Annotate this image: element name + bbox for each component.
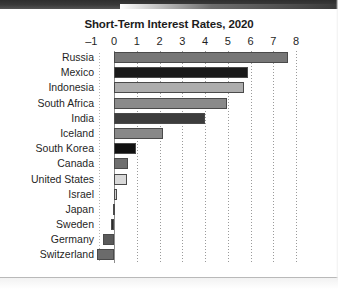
bar <box>114 113 205 124</box>
x-tick-label: 1 <box>125 35 149 47</box>
bar-row: Germany <box>0 233 338 248</box>
bar <box>114 52 288 63</box>
category-label: South Africa <box>0 97 94 110</box>
bar-row: South Korea <box>0 142 338 157</box>
bar <box>114 128 163 139</box>
category-label: Israel <box>0 188 94 201</box>
bar-row: South Africa <box>0 97 338 112</box>
x-tick-label: 2 <box>148 35 172 47</box>
category-label: United States <box>0 173 94 186</box>
category-label: Indonesia <box>0 81 94 94</box>
x-tick-label: 8 <box>284 35 308 47</box>
category-label: Germany <box>0 233 94 246</box>
bar-row: Mexico <box>0 66 338 81</box>
category-label: Russia <box>0 51 94 64</box>
bar <box>114 143 136 154</box>
category-label: Switzerland <box>0 248 94 261</box>
scan-artifact-band <box>0 0 338 9</box>
bar-row: Japan <box>0 203 338 218</box>
category-label: South Korea <box>0 142 94 155</box>
bar-row: Switzerland <box>0 248 338 263</box>
category-label: Canada <box>0 157 94 170</box>
category-label: Mexico <box>0 66 94 79</box>
bar-row: Indonesia <box>0 81 338 96</box>
bar-row: India <box>0 112 338 127</box>
x-tick-label: 3 <box>170 35 194 47</box>
category-label: Japan <box>0 203 94 216</box>
bar <box>113 204 115 215</box>
bar <box>97 249 114 260</box>
bar <box>111 219 114 230</box>
bar-row: Sweden <box>0 218 338 233</box>
bar <box>114 189 117 200</box>
bar-row: United States <box>0 173 338 188</box>
bar <box>114 98 227 109</box>
bar-row: Russia <box>0 51 338 66</box>
bar <box>114 67 248 78</box>
x-tick-label: 5 <box>216 35 240 47</box>
bar <box>114 158 128 169</box>
bar <box>114 174 127 185</box>
bar-rows: RussiaMexicoIndonesiaSouth AfricaIndiaIc… <box>0 51 338 264</box>
x-tick-label: 7 <box>261 35 285 47</box>
figure-bottom-shadow <box>0 278 338 289</box>
bar-row: Canada <box>0 157 338 172</box>
category-label: Sweden <box>0 218 94 231</box>
bar <box>103 234 114 245</box>
bar <box>114 82 244 93</box>
bar-row: Iceland <box>0 127 338 142</box>
x-tick-label: –1 <box>79 35 103 47</box>
x-axis-tick-labels: –1012345678 <box>0 35 338 49</box>
category-label: India <box>0 112 94 125</box>
x-tick-label: 0 <box>102 35 126 47</box>
bar-row: Israel <box>0 188 338 203</box>
plot-area: –1012345678 RussiaMexicoIndonesiaSouth A… <box>0 9 338 271</box>
category-label: Iceland <box>0 127 94 140</box>
x-tick-label: 6 <box>239 35 263 47</box>
x-tick-label: 4 <box>193 35 217 47</box>
chart-figure: Short-Term Interest Rates, 2020 –1012345… <box>0 9 338 271</box>
